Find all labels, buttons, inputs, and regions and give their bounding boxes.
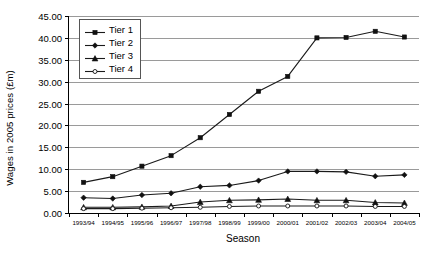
x-axis-tick-label: 1997/98 <box>189 219 211 226</box>
data-point <box>286 74 290 78</box>
y-axis-tick-label: 15.00 <box>38 142 62 153</box>
y-axis-tick-label: 25.00 <box>38 98 62 109</box>
line-chart: Wages in 2005 prices (£m) 0.005.0010.001… <box>0 0 439 256</box>
y-axis-tick-label: 30.00 <box>38 76 62 87</box>
data-point <box>227 183 232 188</box>
data-point <box>169 206 173 210</box>
data-point <box>285 169 290 174</box>
data-point <box>140 164 144 168</box>
series-tier-2 <box>81 169 407 202</box>
data-point <box>111 175 115 179</box>
data-point <box>402 35 406 39</box>
data-point <box>168 191 173 196</box>
data-point <box>286 204 290 208</box>
x-tick-mark <box>127 213 128 217</box>
series-tier-3 <box>81 196 408 210</box>
data-point <box>81 195 86 200</box>
legend-item-label: Tier 3 <box>109 50 133 61</box>
x-tick-mark <box>98 213 99 217</box>
data-point <box>373 29 377 33</box>
data-point <box>82 207 86 211</box>
data-point <box>169 154 173 158</box>
data-point <box>198 136 202 140</box>
x-tick-mark <box>273 213 274 217</box>
data-point <box>344 204 348 208</box>
data-point <box>257 204 261 208</box>
x-tick-mark <box>302 213 303 217</box>
x-axis-tick-label: 2004/05 <box>393 219 415 226</box>
data-point <box>198 205 202 209</box>
x-axis-tick-label: 1996/97 <box>160 219 182 226</box>
data-point <box>227 112 231 116</box>
data-point <box>111 207 115 211</box>
x-tick-mark <box>157 213 158 217</box>
data-point <box>81 180 85 184</box>
y-axis-title: Wages in 2005 prices (£m) <box>0 0 18 256</box>
x-axis-tick-label: 1999/00 <box>247 219 269 226</box>
legend-marker-square-icon <box>84 24 106 35</box>
x-tick-mark <box>215 213 216 217</box>
data-point <box>139 192 144 197</box>
data-point <box>402 172 407 177</box>
legend-item-tier-3: Tier 3 <box>84 49 133 62</box>
x-axis-tick-label: 1998/99 <box>218 219 240 226</box>
x-axis-tick-label: 1994/95 <box>102 219 124 226</box>
data-point <box>198 184 203 189</box>
x-tick-mark <box>332 213 333 217</box>
x-axis-tick-label: 2000/01 <box>277 219 299 226</box>
legend-item-label: Tier 4 <box>109 63 133 74</box>
x-axis-tick-label: 2003/04 <box>364 219 386 226</box>
x-tick-mark <box>361 213 362 217</box>
x-tick-mark <box>419 213 420 217</box>
x-tick-mark <box>390 213 391 217</box>
data-point <box>227 204 231 208</box>
x-axis-tick-label: 1993/94 <box>72 219 94 226</box>
data-point <box>373 204 377 208</box>
data-point <box>256 178 261 183</box>
legend-item-label: Tier 2 <box>109 37 133 48</box>
x-axis-tick-label: 2001/02 <box>306 219 328 226</box>
data-point <box>343 169 348 174</box>
chart-legend: Tier 1Tier 2Tier 3Tier 4 <box>79 19 141 79</box>
data-point <box>344 35 348 39</box>
y-axis-tick-label: 20.00 <box>38 120 62 131</box>
y-axis-tick-label: 5.00 <box>44 186 63 197</box>
legend-item-label: Tier 1 <box>109 24 133 35</box>
data-point <box>373 174 378 179</box>
legend-marker-triangle-icon <box>84 50 106 61</box>
data-point <box>402 204 406 208</box>
y-axis-tick-label: 40.00 <box>38 32 62 43</box>
data-point <box>256 89 260 93</box>
x-axis-tick-label: 2002/03 <box>335 219 357 226</box>
legend-item-tier-2: Tier 2 <box>84 36 133 49</box>
y-axis-tick-label: 35.00 <box>38 54 62 65</box>
legend-item-tier-1: Tier 1 <box>84 23 133 36</box>
legend-item-tier-4: Tier 4 <box>84 62 133 75</box>
data-point <box>110 196 115 201</box>
data-point <box>140 206 144 210</box>
y-axis-tick-label: 45.00 <box>38 11 62 22</box>
y-axis-tick-label: 0.00 <box>44 208 63 219</box>
x-tick-mark <box>244 213 245 217</box>
data-point <box>314 169 319 174</box>
x-tick-mark <box>186 213 187 217</box>
data-point <box>315 36 319 40</box>
data-point <box>315 204 319 208</box>
x-axis-title: Season <box>68 233 418 244</box>
legend-marker-circle-icon <box>84 63 106 74</box>
x-axis-tick-label: 1995/96 <box>131 219 153 226</box>
y-axis-tick-label: 10.00 <box>38 164 62 175</box>
x-tick-mark <box>69 213 70 217</box>
legend-marker-diamond-icon <box>84 37 106 48</box>
